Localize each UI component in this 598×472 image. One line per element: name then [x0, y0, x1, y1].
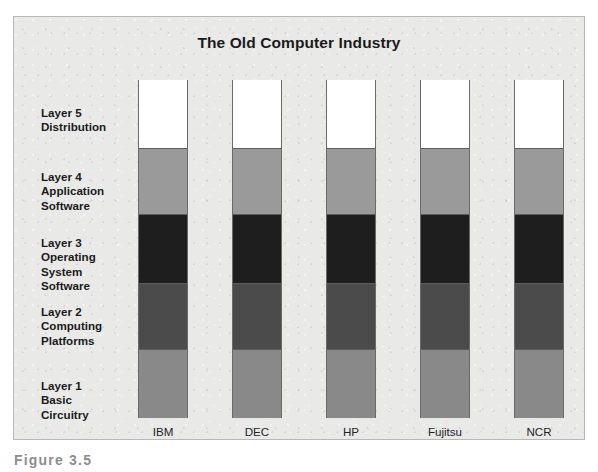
bar-segment-fujitsu-layer-3	[421, 214, 469, 283]
chart-title: The Old Computer Industry	[14, 34, 584, 52]
bar-label-ncr: NCR	[514, 425, 564, 438]
bar-segment-ncr-layer-4	[515, 148, 563, 214]
bar-segment-ncr-layer-2	[515, 283, 563, 349]
bar-label-hp: HP	[326, 425, 376, 438]
bar-label-ibm: IBM	[138, 425, 188, 438]
bar-column-dec: DEC	[232, 80, 282, 438]
figure-caption: Figure 3.5	[14, 452, 92, 468]
bar-stack-hp	[326, 80, 376, 418]
bar-segment-hp-layer-3	[327, 214, 375, 283]
bar-segment-hp-layer-2	[327, 283, 375, 349]
bar-segment-fujitsu-layer-1	[421, 349, 469, 418]
bar-segment-ncr-layer-5	[515, 80, 563, 148]
bar-segment-ncr-layer-1	[515, 349, 563, 418]
bar-segment-fujitsu-layer-4	[421, 148, 469, 214]
bar-column-ncr: NCR	[514, 80, 564, 438]
bar-segment-ncr-layer-3	[515, 214, 563, 283]
bar-stack-ncr	[514, 80, 564, 418]
bar-segment-dec-layer-2	[233, 283, 281, 349]
layer-label-1: Layer 1 Basic Circuitry	[41, 379, 151, 422]
layer-label-2: Layer 2 Computing Platforms	[41, 305, 151, 348]
bar-segment-dec-layer-4	[233, 148, 281, 214]
layer-label-5: Layer 5 Distribution	[41, 106, 151, 135]
bar-column-hp: HP	[326, 80, 376, 438]
layer-label-4: Layer 4 Application Software	[41, 170, 151, 213]
bar-segment-hp-layer-4	[327, 148, 375, 214]
layer-label-3: Layer 3 Operating System Software	[41, 236, 151, 294]
bar-segment-fujitsu-layer-2	[421, 283, 469, 349]
bar-segment-fujitsu-layer-5	[421, 80, 469, 148]
bar-stack-dec	[232, 80, 282, 418]
bar-segment-dec-layer-1	[233, 349, 281, 418]
bar-chart-area: IBMDECHPFujitsuNCR	[14, 17, 585, 440]
bar-stack-fujitsu	[420, 80, 470, 418]
bar-label-fujitsu: Fujitsu	[420, 425, 470, 438]
bar-label-dec: DEC	[232, 425, 282, 438]
figure-frame: The Old Computer Industry Layer 5 Distri…	[13, 16, 585, 440]
bar-segment-dec-layer-5	[233, 80, 281, 148]
bar-segment-hp-layer-5	[327, 80, 375, 148]
bar-segment-hp-layer-1	[327, 349, 375, 418]
bar-column-fujitsu: Fujitsu	[420, 80, 470, 438]
bar-segment-dec-layer-3	[233, 214, 281, 283]
